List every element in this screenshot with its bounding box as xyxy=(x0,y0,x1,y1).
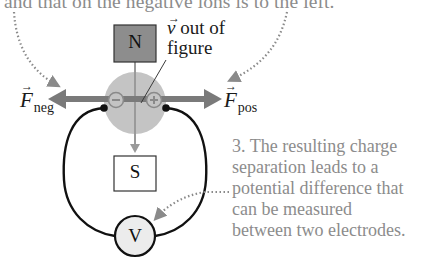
north-pole-label: N xyxy=(114,31,156,53)
force-arrow-shaft xyxy=(62,96,208,102)
velocity-label: →v out of figure xyxy=(167,18,225,58)
caption-line: 3. The resulting charge xyxy=(232,136,443,157)
caption-line: separation leads to a xyxy=(232,157,443,178)
right-electrode xyxy=(162,104,170,112)
voltmeter-label: V xyxy=(115,225,155,247)
left-electrode xyxy=(100,104,108,112)
caption-line: between two electrodes. xyxy=(232,220,443,241)
south-pole-label: S xyxy=(114,161,156,183)
vector-arrow-icon: → xyxy=(21,79,33,94)
dotted-leader-right xyxy=(233,12,287,79)
vector-arrow-icon: → xyxy=(168,8,180,28)
velocity-text-line1: out of xyxy=(175,17,225,38)
force-negative-label: →Fneg xyxy=(20,88,54,113)
dotted-leader-left xyxy=(14,12,55,84)
velocity-text-line2: figure xyxy=(167,38,225,58)
force-positive-label: →Fpos xyxy=(224,88,257,113)
left-wire xyxy=(64,108,115,236)
velocity-vector: →v xyxy=(167,17,175,38)
vector-arrow-icon: → xyxy=(225,79,237,94)
caption-line: can be measured xyxy=(232,199,443,220)
right-caption: 3. The resulting charge separation leads… xyxy=(232,136,443,241)
force-pos-arrowhead xyxy=(204,89,222,109)
magnetic-field-arrowhead xyxy=(130,144,140,153)
caption-line: potential difference that xyxy=(232,178,443,199)
diagram-stage: and that on the negative ions is to the … xyxy=(0,0,443,279)
right-wire xyxy=(155,108,206,236)
